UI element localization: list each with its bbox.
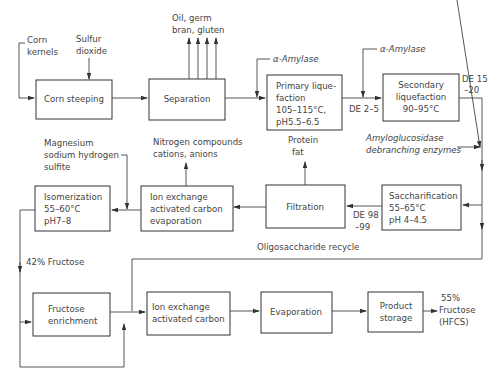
svg-text:Primary lique-: Primary lique- [276,81,336,91]
svg-text:kernels: kernels [27,47,58,57]
svg-text:debranching enzymes: debranching enzymes [366,145,462,155]
svg-text:pH5.5–6.5: pH5.5–6.5 [276,117,320,127]
saccharification-box: Saccharification 55–65°C pH 4–4.5 [382,185,461,230]
svg-text:bran, gluten: bran, gluten [172,25,225,35]
svg-text:Nitrogen compounds: Nitrogen compounds [153,137,243,147]
main-flow-line [459,98,482,228]
final-product-output: 55% Fructose (HFCS) [439,293,475,327]
svg-text:Evaporation: Evaporation [270,307,322,317]
svg-text:55–65°C: 55–65°C [389,203,425,213]
fructose-enrichment-box: Fructose enrichment [33,293,110,336]
svg-text:α-Amylase: α-Amylase [273,54,319,64]
svg-text:Isomerization: Isomerization [44,192,102,202]
svg-text:(HFCS): (HFCS) [439,317,469,327]
de-2-5-label: DE 2–5 [349,104,379,114]
process-flow-diagram: Corn kernels Sulfur dioxide Corn steepin… [0,0,500,378]
svg-text:dioxide: dioxide [76,46,107,56]
svg-text:pH 4–4.5: pH 4–4.5 [389,215,427,225]
svg-text:pH7–8: pH7–8 [44,216,71,226]
evaporation-box: Evaporation [261,292,332,333]
svg-text:Corn steeping: Corn steeping [44,94,104,104]
svg-text:faction: faction [276,93,305,103]
svg-text:Amyloglucosidase: Amyloglucosidase [365,133,444,143]
product-storage-box: Product storage [368,292,423,332]
svg-text:90–95°C: 90–95°C [403,104,439,114]
svg-text:cations, anions: cations, anions [153,149,218,159]
svg-text:Fructose: Fructose [48,304,84,314]
svg-text:Sulfur: Sulfur [76,34,102,44]
svg-text:Fructose: Fructose [439,305,475,315]
svg-text:Separation: Separation [164,94,211,104]
svg-text:fat: fat [292,147,304,157]
svg-text:storage: storage [380,313,413,323]
ion-exchange-byproducts-output: Nitrogen compounds cations, anions [153,137,243,186]
primary-liquefaction-box: Primary lique- faction 105–115°C, pH5.5–… [267,75,342,130]
svg-text:Saccharification: Saccharification [389,191,458,201]
svg-text:DE 98: DE 98 [353,210,379,220]
sulfur-dioxide-input: Sulfur dioxide [76,34,107,79]
svg-text:42% Fructose: 42% Fructose [26,257,84,267]
ion-exchange-activated-carbon-box: Ion exchange activated carbon [147,292,230,335]
svg-text:105–115°C,: 105–115°C, [276,105,326,115]
svg-text:Secondary: Secondary [398,80,444,90]
isomerization-box: Isomerization 55–60°C pH7–8 [35,186,110,231]
svg-text:–99: –99 [355,222,370,232]
svg-text:Oligosaccharide recycle: Oligosaccharide recycle [257,242,359,252]
filtration-box: Filtration [266,185,345,228]
svg-text:Oil, germ: Oil, germ [172,13,212,23]
svg-text:DE 15: DE 15 [462,74,488,84]
svg-text:Corn: Corn [27,35,47,45]
svg-text:sulfite: sulfite [44,162,70,172]
de-98-99-label: DE 98 –99 [353,210,379,232]
svg-text:Protein: Protein [288,135,318,145]
corn-steeping-box: Corn steeping [36,80,112,119]
svg-text:55%: 55% [441,293,460,303]
filtration-byproducts-output: Protein fat [288,135,318,185]
de-15-20-label: DE 15 –20 [462,74,488,95]
svg-text:Product: Product [380,301,413,311]
svg-text:activated carbon: activated carbon [152,314,225,324]
svg-text:Ion exchange: Ion exchange [150,192,208,202]
secondary-liquefaction-box: Secondary liquefaction 90–95°C [383,74,459,121]
svg-text:Magnesium: Magnesium [44,138,94,148]
svg-text:evaporation: evaporation [150,216,202,226]
svg-text:Ion exchange: Ion exchange [152,302,210,312]
svg-text:α-Amylase: α-Amylase [380,44,426,54]
svg-text:sodium hydrogen: sodium hydrogen [44,150,119,160]
svg-text:activated carbon: activated carbon [150,204,223,214]
svg-text:Filtration: Filtration [286,202,324,212]
separation-byproducts-output: Oil, germ bran, gluten [172,13,225,79]
ion-exchange-evaporation-box: Ion exchange activated carbon evaporatio… [141,186,233,231]
svg-text:55–60°C: 55–60°C [44,204,80,214]
svg-text:enrichment: enrichment [48,316,98,326]
svg-text:liquefaction: liquefaction [396,92,446,102]
separation-box: Separation [149,79,225,120]
